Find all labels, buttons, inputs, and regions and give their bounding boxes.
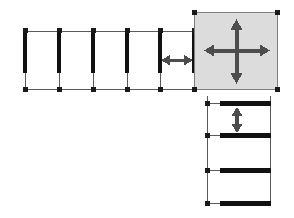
wall-horizontal-4 (220, 201, 271, 206)
panel-arrow-vertical-shaft (235, 28, 239, 73)
wall-vertical-5 (158, 31, 162, 73)
node-bottom-2 (57, 87, 62, 92)
node-bottom-1 (23, 87, 28, 92)
wall-horizontal-2 (220, 133, 271, 138)
wall-horizontal-3 (220, 168, 271, 173)
panel-node-top-right (275, 10, 280, 15)
wall-vertical-2 (57, 31, 61, 73)
node-column-1 (205, 101, 210, 106)
node-column-4 (205, 201, 210, 206)
wall-horizontal-1 (220, 101, 271, 106)
node-bottom-5 (158, 87, 163, 92)
node-column-3 (205, 168, 210, 173)
node-column-2 (205, 133, 210, 138)
node-top-1 (23, 28, 28, 33)
node-bottom-3 (91, 87, 96, 92)
panel-node-top-left (192, 10, 197, 15)
wall-vertical-4 (125, 31, 129, 73)
structural-frame-diagram (0, 0, 294, 218)
diagram-canvas (0, 0, 294, 218)
node-top-2 (57, 28, 62, 33)
node-top-3 (91, 28, 96, 33)
node-bottom-4 (125, 87, 130, 92)
node-top-4 (125, 28, 130, 33)
panel-node-bottom-left (192, 87, 197, 92)
panel-node-bottom-right (275, 87, 280, 92)
wall-vertical-1 (23, 31, 27, 73)
node-top-5 (158, 28, 163, 33)
wall-vertical-3 (91, 31, 95, 73)
